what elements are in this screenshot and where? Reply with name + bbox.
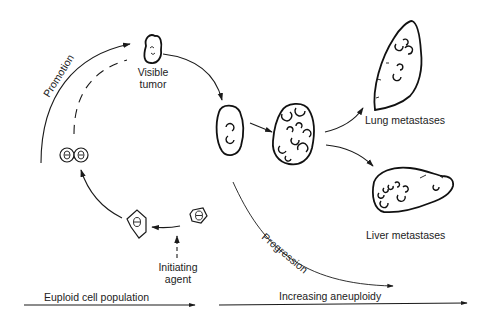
liver-metastasis-arrow <box>326 145 373 166</box>
tumor-progression-diagram: Promotion Progression <box>0 0 486 328</box>
euploid-axis-label: Euploid cell population <box>44 291 149 303</box>
initiation-arrow <box>152 226 180 228</box>
visible-tumor-label: Visible tumor <box>128 66 178 90</box>
svg-text:Progression: Progression <box>260 230 311 275</box>
visible-tumor-icon <box>144 35 161 63</box>
aneuploid-axis-line <box>219 303 467 305</box>
dashed-arc <box>74 60 127 134</box>
lung-metastases-label: Lung metastases <box>365 114 445 126</box>
aneuploid-axis-label: Increasing aneuploidy <box>279 290 381 302</box>
advanced-tumor-icon <box>273 104 314 165</box>
initiating-agent-label: Initiating agent <box>150 261 206 285</box>
promotion-arrow <box>41 44 130 163</box>
progression-label: Progression <box>260 230 311 275</box>
growing-tumor-icon <box>217 106 244 156</box>
lung-metastasis-arrow <box>325 108 363 132</box>
initiating-agent-label-line1: Initiating <box>150 261 206 273</box>
lung-metastases-icon <box>374 21 421 110</box>
initiating-agent-label-line2: agent <box>150 273 206 285</box>
liver-metastases-label: Liver metastases <box>366 229 445 241</box>
visible-tumor-label-line1: Visible <box>128 66 178 78</box>
liver-metastases-icon <box>373 168 453 213</box>
initiated-cell-icon <box>127 210 146 238</box>
normal-cell-icon <box>190 208 207 223</box>
clonal-expansion-arrow <box>81 170 122 218</box>
dividing-cells-icon <box>60 148 88 162</box>
visible-tumor-label-line2: tumor <box>128 78 178 90</box>
tumor-advance-arrow <box>250 123 272 132</box>
